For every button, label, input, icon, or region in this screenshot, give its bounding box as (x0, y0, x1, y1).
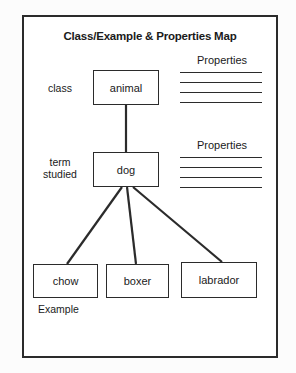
page-title: Class/Example & Properties Map (22, 30, 278, 42)
node-chow[interactable]: chow (33, 264, 98, 298)
properties-write-line[interactable] (180, 177, 262, 178)
node-animal[interactable]: animal (93, 70, 159, 105)
properties-heading-2: Properties (176, 139, 268, 151)
properties-write-line[interactable] (180, 157, 262, 158)
properties-write-line[interactable] (180, 102, 262, 103)
properties-write-line[interactable] (180, 82, 262, 83)
level-label-class: class (34, 82, 86, 94)
node-boxer[interactable]: boxer (106, 264, 169, 298)
properties-write-line[interactable] (180, 72, 262, 73)
level-label-example: Example (38, 303, 118, 315)
properties-lines-2 (176, 157, 268, 188)
properties-block-1: Properties (176, 54, 268, 103)
properties-heading-1: Properties (176, 54, 268, 66)
properties-lines-1 (176, 72, 268, 103)
level-label-term-studied-line1: term (34, 156, 86, 168)
level-label-term-studied-line2: studied (34, 168, 86, 180)
worksheet-page: Class/Example & Properties Map class ter… (0, 0, 296, 373)
properties-write-line[interactable] (180, 92, 262, 93)
level-label-term-studied: term studied (34, 156, 86, 181)
node-dog[interactable]: dog (93, 152, 159, 187)
properties-write-line[interactable] (180, 187, 262, 188)
node-labrador[interactable]: labrador (181, 262, 257, 298)
properties-block-2: Properties (176, 139, 268, 188)
properties-write-line[interactable] (180, 167, 262, 168)
